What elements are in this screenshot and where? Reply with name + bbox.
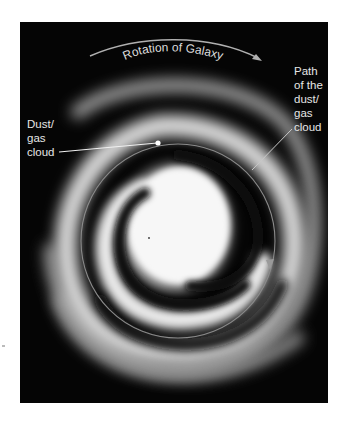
cloud-label-line-2: gas	[27, 132, 46, 144]
galaxy-center-dot	[148, 237, 150, 239]
path-label-line-1: Path	[294, 65, 318, 77]
cloud-label-line-3: cloud	[27, 146, 55, 158]
path-label-line-2: of the	[294, 79, 323, 91]
path-label-line-5: cloud	[294, 121, 322, 133]
path-label-line-3: dust/	[294, 93, 320, 105]
stray-mark	[2, 345, 5, 347]
cloud-label-line-1: Dust/	[27, 118, 55, 130]
galaxy-diagram: Rotation of Galaxy Dust/ gas cloud Path …	[0, 0, 345, 426]
dust-gas-cloud-marker	[155, 140, 160, 145]
path-label-line-4: gas	[294, 107, 313, 119]
galaxy-core-highlight	[130, 167, 230, 283]
